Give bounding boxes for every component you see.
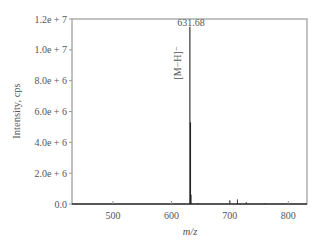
y-tick-label: 1.2e + 7 [34,14,67,25]
x-tick-label: 500 [105,210,120,221]
y-axis-title: Intensity, cps [11,83,22,138]
y-tick-label: 4.0e + 6 [34,137,67,148]
ion-annotation-label: [M−H]⁻ [172,46,183,80]
y-tick-label: 1.0e + 7 [34,44,67,55]
mass-spectrum-chart: 0.02.0e + 64.0e + 66.0e + 68.0e + 61.0e … [0,0,319,242]
x-tick-label: 800 [281,210,296,221]
x-tick-label: 600 [164,210,179,221]
x-axis-title: m/z [183,226,198,237]
peak-value-label: 631.68 [177,17,205,28]
y-tick-label: 6.0e + 6 [34,106,67,117]
spectrum-peaks [190,27,265,204]
y-axis-ticks: 0.02.0e + 64.0e + 66.0e + 68.0e + 61.0e … [34,14,72,210]
y-tick-label: 0.0 [55,199,68,210]
y-tick-label: 2.0e + 6 [34,168,67,179]
x-tick-label: 700 [222,210,237,221]
y-tick-label: 8.0e + 6 [34,75,67,86]
